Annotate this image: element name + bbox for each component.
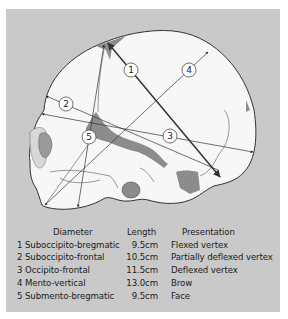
row-length: 13.0cm [126,277,158,290]
row-presentation: Flexed vertex [171,239,228,252]
row-diameter: 1 Suboccipito-bregmatic [17,239,120,252]
svg-text:1: 1 [128,65,134,75]
table-row: 4 Mento-vertical 13.0cm Brow [0,277,288,290]
row-presentation: Deflexed vertex [171,264,238,277]
header-presentation: Presentation [182,226,235,239]
table-header: Diameter Length Presentation [0,226,288,239]
table-row: 2 Suboccipito-frontal 10.5cm Partially d… [0,251,288,264]
row-length: 9.5cm [126,239,158,252]
row-diameter: 4 Mento-vertical [17,277,85,290]
svg-text:4: 4 [186,65,192,75]
row-length: 11.5cm [126,264,158,277]
row-presentation: Partially deflexed vertex [171,251,273,264]
svg-text:5: 5 [86,132,92,142]
row-presentation: Brow [171,277,192,290]
header-diameter: Diameter [53,226,92,239]
row-diameter: 2 Suboccipito-frontal [17,251,104,264]
svg-text:3: 3 [167,131,173,141]
label-4: 4 [182,63,196,77]
fetal-skull-diagram: 1 2 3 4 5 [0,0,288,225]
table-row: 1 Suboccipito-bregmatic 9.5cm Flexed ver… [0,239,288,252]
svg-text:2: 2 [63,99,69,109]
table-row: 5 Submento-bregmatic 9.5cm Face [0,290,288,303]
row-diameter: 5 Submento-bregmatic [17,290,114,303]
row-diameter: 3 Occipito-frontal [17,264,90,277]
label-5: 5 [82,130,96,144]
row-length: 10.5cm [126,251,158,264]
label-2: 2 [59,97,73,111]
ear-opening [122,182,140,198]
skull-outline [29,30,255,209]
label-1: 1 [124,63,138,77]
row-presentation: Face [171,290,190,303]
label-3: 3 [163,129,177,143]
row-length: 9.5cm [126,290,158,303]
header-length: Length [127,226,161,239]
table-row: 3 Occipito-frontal 11.5cm Deflexed verte… [0,264,288,277]
